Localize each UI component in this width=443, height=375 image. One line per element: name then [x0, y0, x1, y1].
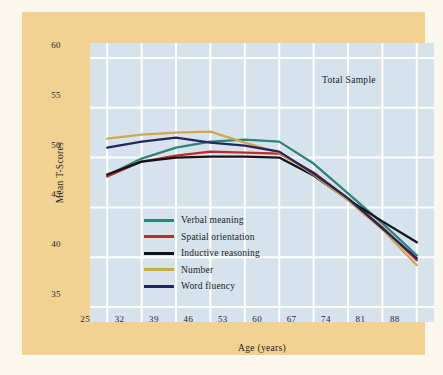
legend-color-swatch: [144, 252, 174, 255]
legend-item-label: Spatial orientation: [181, 232, 255, 242]
y-axis-tick-label: 45: [35, 189, 61, 199]
x-axis-tick-label: 88: [382, 314, 408, 324]
legend-item[interactable]: Spatial orientation: [144, 229, 294, 246]
legend-color-swatch: [144, 285, 174, 288]
legend-color-swatch: [144, 268, 174, 271]
x-axis-tick-label: 81: [347, 314, 373, 324]
chart-legend: Verbal meaningSpatial orientationInducti…: [144, 212, 294, 295]
legend-color-swatch: [144, 235, 174, 238]
x-axis-tick-label: 67: [279, 314, 305, 324]
legend-color-swatch: [144, 219, 174, 222]
y-axis-tick-label: 40: [35, 239, 61, 249]
y-axis-tick-label: 50: [35, 140, 61, 150]
legend-item-label: Word fluency: [181, 281, 235, 291]
x-axis-tick-label: 53: [210, 314, 236, 324]
legend-item[interactable]: Inductive reasoning: [144, 245, 294, 262]
x-axis-tick-label: 60: [244, 314, 270, 324]
legend-item[interactable]: Word fluency: [144, 278, 294, 295]
y-axis-tick-label: 60: [35, 40, 61, 50]
y-axis-tick-label: 55: [35, 90, 61, 100]
y-axis-tick-label: 35: [35, 289, 61, 299]
figure-container: Mean T-Scores Age (years) 605550454035 2…: [0, 0, 443, 375]
figure-background-panel: Mean T-Scores Age (years) 605550454035 2…: [22, 12, 425, 355]
chart-annotation-total-sample: Total Sample: [322, 75, 376, 85]
legend-item-label: Number: [181, 265, 213, 275]
legend-item-label: Inductive reasoning: [181, 248, 260, 258]
legend-item-label: Verbal meaning: [181, 215, 244, 225]
x-axis-tick-label: 25: [72, 314, 98, 324]
x-axis-tick-label: 39: [141, 314, 167, 324]
legend-item[interactable]: Number: [144, 262, 294, 279]
legend-item[interactable]: Verbal meaning: [144, 212, 294, 229]
x-axis-tick-label: 74: [313, 314, 339, 324]
x-axis-tick-label: 46: [175, 314, 201, 324]
x-axis-tick-label: 32: [107, 314, 133, 324]
x-axis-title: Age (years): [90, 343, 434, 353]
